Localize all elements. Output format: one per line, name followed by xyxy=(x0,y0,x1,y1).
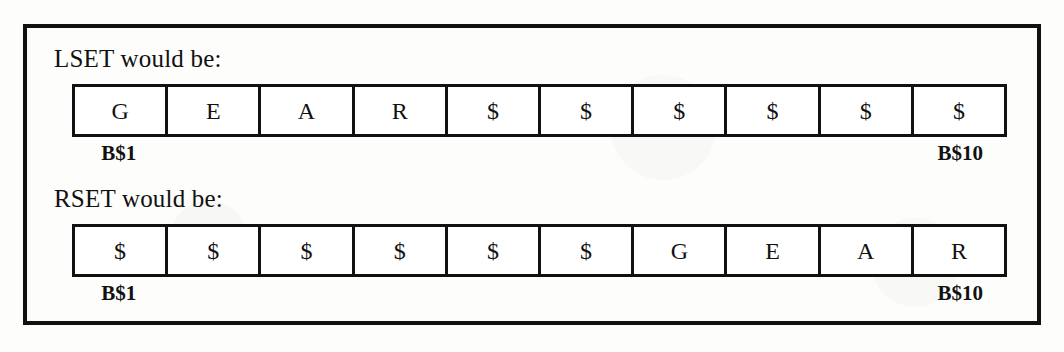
lset-start-label: B$1 xyxy=(72,139,166,167)
rset-heading: RSET would be: xyxy=(54,184,223,214)
buffer-cell: $ xyxy=(634,87,727,134)
lset-heading: LSET would be: xyxy=(54,44,222,74)
buffer-cell: R xyxy=(914,227,1004,274)
buffer-cell: $ xyxy=(821,87,914,134)
buffer-cell: $ xyxy=(75,227,168,274)
buffer-cell: A xyxy=(261,87,354,134)
lset-axis-labels: B$1 B$10 xyxy=(72,139,1007,169)
buffer-cell: $ xyxy=(541,227,634,274)
buffer-cell: $ xyxy=(261,227,354,274)
buffer-cell: $ xyxy=(448,227,541,274)
figure-frame: LSET would be: G E A R $ $ $ $ $ $ B$1 B… xyxy=(23,24,1041,325)
buffer-cell: $ xyxy=(168,227,261,274)
buffer-cell: E xyxy=(168,87,261,134)
buffer-cell: E xyxy=(727,227,820,274)
rset-axis-labels: B$1 B$10 xyxy=(72,279,1007,309)
buffer-cell: $ xyxy=(355,227,448,274)
buffer-cell: $ xyxy=(541,87,634,134)
rset-start-label: B$1 xyxy=(72,279,166,307)
buffer-cell: A xyxy=(821,227,914,274)
buffer-cell: $ xyxy=(727,87,820,134)
rset-end-label: B$10 xyxy=(914,279,1008,307)
buffer-cell: G xyxy=(75,87,168,134)
buffer-cell: G xyxy=(634,227,727,274)
buffer-cell: $ xyxy=(914,87,1004,134)
lset-buffer-row: G E A R $ $ $ $ $ $ xyxy=(72,84,1007,137)
rset-buffer-row: $ $ $ $ $ $ G E A R xyxy=(72,224,1007,277)
lset-end-label: B$10 xyxy=(914,139,1008,167)
buffer-cell: R xyxy=(355,87,448,134)
buffer-cell: $ xyxy=(448,87,541,134)
